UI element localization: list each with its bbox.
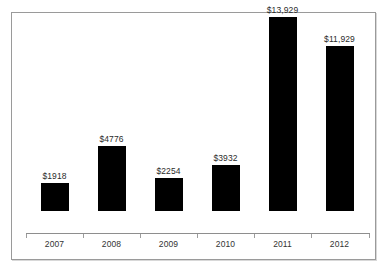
x-axis-tick (26, 234, 27, 238)
x-axis-tick (254, 234, 255, 238)
x-axis-line (26, 233, 370, 234)
bar-rect[interactable] (212, 165, 240, 211)
x-axis-category-label: 2010 (197, 239, 254, 249)
bar-value-label: $11,929 (311, 34, 368, 44)
x-axis-category-label: 2007 (26, 239, 83, 249)
bar-group[interactable]: $1918 (26, 171, 83, 211)
bar-value-label: $1918 (26, 171, 83, 181)
bar-value-label: $2254 (140, 166, 197, 176)
bar-group[interactable]: $13,929 (254, 5, 311, 211)
bar-value-label: $3932 (197, 153, 254, 163)
bar-group[interactable]: $3932 (197, 153, 254, 211)
bar-rect[interactable] (269, 17, 297, 211)
x-axis-tick (140, 234, 141, 238)
chart-frame: $19182007$47762008$22542009$39322010$13,… (11, 12, 376, 260)
bar-group[interactable]: $11,929 (311, 34, 368, 211)
x-axis-tick (369, 234, 370, 238)
bar-rect[interactable] (41, 183, 69, 211)
plot-area: $19182007$47762008$22542009$39322010$13,… (12, 13, 375, 259)
bar-rect[interactable] (326, 46, 354, 211)
bar-value-label: $4776 (83, 134, 140, 144)
bar-value-label: $13,929 (254, 5, 311, 15)
bar-group[interactable]: $2254 (140, 166, 197, 211)
bar-rect[interactable] (98, 146, 126, 211)
x-axis-tick (311, 234, 312, 238)
x-axis-tick (197, 234, 198, 238)
bar-group[interactable]: $4776 (83, 134, 140, 211)
x-axis-category-label: 2009 (140, 239, 197, 249)
x-axis-category-label: 2008 (83, 239, 140, 249)
x-axis-category-label: 2012 (311, 239, 368, 249)
x-axis-category-label: 2011 (254, 239, 311, 249)
x-axis-tick (83, 234, 84, 238)
bar-rect[interactable] (155, 178, 183, 211)
